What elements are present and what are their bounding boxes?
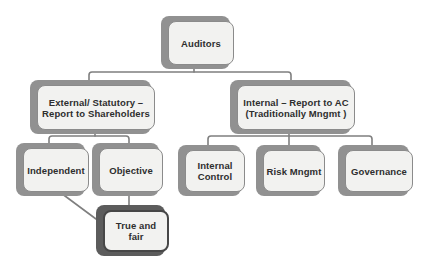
node-card: Internal Control xyxy=(185,150,245,192)
node-label: Control xyxy=(198,171,232,182)
node-label: Objective xyxy=(109,165,153,176)
node-external-statutory: External/ Statutory – Report to Sharehol… xyxy=(37,85,155,130)
org-chart-diagram: Auditors External/ Statutory – Report to… xyxy=(0,0,427,267)
node-label: External/ Statutory – xyxy=(49,97,144,108)
node-governance: Governance xyxy=(345,150,413,192)
node-independent: Independent xyxy=(23,148,89,192)
node-card: Objective xyxy=(99,148,163,192)
node-label: Risk Mngmt xyxy=(267,166,322,177)
node-label: Report to Shareholders xyxy=(42,108,150,119)
connector-independent-truefair xyxy=(61,193,96,219)
node-card: Internal – Report to AC (Traditionally M… xyxy=(237,85,355,130)
node-internal-control: Internal Control xyxy=(185,150,245,192)
node-label: Governance xyxy=(351,166,407,177)
node-label: Auditors xyxy=(181,38,221,49)
node-risk-mngmt: Risk Mngmt xyxy=(263,150,325,192)
node-label: fair xyxy=(128,231,143,242)
node-card: External/ Statutory – Report to Sharehol… xyxy=(37,85,155,130)
node-card: Auditors xyxy=(168,21,234,65)
node-card: Risk Mngmt xyxy=(263,150,325,192)
node-auditors: Auditors xyxy=(168,21,234,65)
node-true-and-fair: True and fair xyxy=(103,210,169,252)
node-objective: Objective xyxy=(99,148,163,192)
node-card: Independent xyxy=(23,148,89,192)
node-label: True and xyxy=(116,220,156,231)
node-label: Internal xyxy=(197,160,232,171)
node-internal-report-ac: Internal – Report to AC (Traditionally M… xyxy=(237,85,355,130)
node-label: Internal – Report to AC xyxy=(243,97,348,108)
node-card: True and fair xyxy=(103,210,169,252)
node-label: (Traditionally Mngmt ) xyxy=(246,108,347,119)
node-card: Governance xyxy=(345,150,413,192)
node-label: Independent xyxy=(27,165,85,176)
